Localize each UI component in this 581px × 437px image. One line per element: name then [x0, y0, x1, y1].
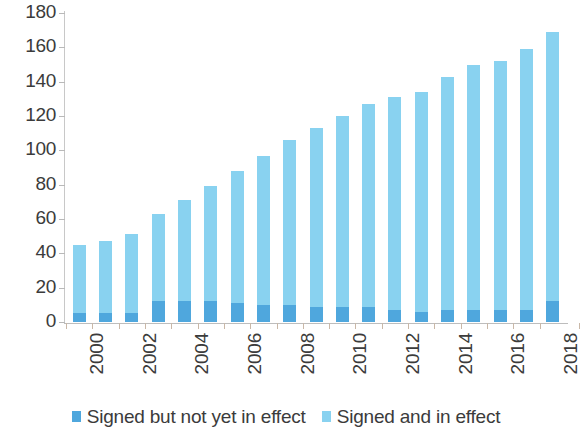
y-axis-tick-label: 140 — [25, 71, 56, 91]
x-axis-tick-label: 2004 — [192, 333, 212, 374]
bar-segment-signed-and-in-effect — [125, 234, 138, 313]
bar-segment-signed-and-in-effect — [283, 140, 296, 305]
bar-segment-signed-and-in-effect — [415, 92, 428, 312]
chart-legend: Signed but not yet in effectSigned and i… — [0, 406, 572, 427]
bar-segment-signed-and-in-effect — [231, 171, 244, 303]
bar-segment-signed-and-in-effect — [152, 214, 165, 302]
bar-stack — [152, 214, 165, 322]
x-axis-line — [64, 323, 568, 324]
x-axis-tick-mark — [303, 323, 304, 329]
legend-item[interactable]: Signed and in effect — [322, 406, 501, 427]
bar-segment-signed-not-yet-in-effect — [467, 310, 480, 322]
bar-stack — [283, 140, 296, 322]
bar-stack — [73, 245, 86, 322]
bar-segment-signed-not-yet-in-effect — [99, 313, 112, 322]
y-axis-tick-mark — [59, 13, 65, 14]
bar-stack — [441, 77, 454, 322]
bar-segment-signed-not-yet-in-effect — [73, 313, 86, 322]
y-axis-tick-mark — [59, 185, 65, 186]
x-axis-tick-mark — [579, 323, 580, 329]
bar-segment-signed-not-yet-in-effect — [204, 301, 217, 322]
y-axis-tick-mark — [59, 116, 65, 117]
y-axis-tick-mark — [59, 288, 65, 289]
legend-swatch-icon — [322, 411, 331, 422]
x-axis-tick-mark — [461, 323, 462, 329]
x-axis-tick-mark — [355, 323, 356, 329]
bar-stack — [336, 116, 349, 322]
bar-segment-signed-not-yet-in-effect — [336, 307, 349, 322]
x-axis-tick-label: 2014 — [456, 333, 476, 374]
bar-stack — [388, 97, 401, 322]
x-axis-tick-mark — [329, 323, 330, 329]
x-axis-tick-mark — [540, 323, 541, 329]
y-axis-tick-mark — [59, 219, 65, 220]
bar-stack — [362, 104, 375, 322]
x-axis-tick-label: 2010 — [350, 333, 370, 374]
x-axis-tick-mark — [513, 323, 514, 329]
y-axis-tick-label: 60 — [35, 208, 56, 228]
x-axis-tick-mark — [408, 323, 409, 329]
bar-segment-signed-and-in-effect — [388, 97, 401, 310]
bar-segment-signed-not-yet-in-effect — [520, 310, 533, 322]
x-axis-tick-label: 2008 — [298, 333, 318, 374]
bar-stack — [231, 171, 244, 322]
bar-segment-signed-not-yet-in-effect — [257, 305, 270, 322]
bar-segment-signed-not-yet-in-effect — [415, 312, 428, 322]
x-axis-tick-label: 2016 — [508, 333, 528, 374]
x-axis-tick-mark — [487, 323, 488, 329]
bar-segment-signed-not-yet-in-effect — [178, 301, 191, 322]
bar-segment-signed-not-yet-in-effect — [231, 303, 244, 322]
x-axis-tick-mark — [250, 323, 251, 329]
plot-area — [66, 13, 566, 322]
bar-segment-signed-and-in-effect — [546, 32, 559, 302]
x-axis-tick-label: 2002 — [140, 333, 160, 374]
y-axis-tick-mark — [59, 47, 65, 48]
x-axis-tick-mark — [171, 323, 172, 329]
x-axis-tick-mark — [224, 323, 225, 329]
x-axis-tick-mark — [66, 323, 67, 329]
x-axis-tick-label: 2006 — [245, 333, 265, 374]
x-axis-tick-mark — [434, 323, 435, 329]
bar-segment-signed-not-yet-in-effect — [362, 307, 375, 322]
bar-segment-signed-not-yet-in-effect — [441, 310, 454, 322]
y-axis-tick-label: 0 — [46, 311, 56, 331]
bar-stack — [415, 92, 428, 322]
bar-segment-signed-and-in-effect — [441, 77, 454, 310]
y-axis-tick-mark — [59, 150, 65, 151]
y-axis-tick-label: 120 — [25, 105, 56, 125]
bar-segment-signed-and-in-effect — [204, 186, 217, 301]
bar-stack — [125, 234, 138, 322]
bar-segment-signed-not-yet-in-effect — [125, 313, 138, 322]
bar-stack — [257, 156, 270, 323]
x-axis-tick-mark — [145, 323, 146, 329]
bar-stack — [494, 61, 507, 322]
bar-segment-signed-and-in-effect — [257, 156, 270, 305]
bar-segment-signed-not-yet-in-effect — [546, 301, 559, 322]
y-axis-tick-mark — [59, 82, 65, 83]
x-axis-tick-mark — [92, 323, 93, 329]
bar-segment-signed-not-yet-in-effect — [283, 305, 296, 322]
legend-item[interactable]: Signed but not yet in effect — [72, 406, 306, 427]
x-axis-tick-mark — [198, 323, 199, 329]
legend-label: Signed and in effect — [337, 406, 501, 427]
bar-segment-signed-and-in-effect — [467, 65, 480, 310]
bar-segment-signed-and-in-effect — [494, 61, 507, 310]
legend-swatch-icon — [72, 411, 81, 422]
x-axis-tick-label: 2012 — [403, 333, 423, 374]
y-axis-tick-label: 40 — [35, 242, 56, 262]
bar-segment-signed-and-in-effect — [362, 104, 375, 307]
bar-segment-signed-and-in-effect — [310, 128, 323, 307]
y-axis-tick-label: 100 — [25, 139, 56, 159]
bar-segment-signed-and-in-effect — [178, 200, 191, 301]
y-axis-tick-mark — [59, 253, 65, 254]
bar-segment-signed-not-yet-in-effect — [388, 310, 401, 322]
x-axis-tick-label: 2000 — [87, 333, 107, 374]
x-axis-tick-label: 2018 — [561, 333, 581, 374]
y-axis-tick-mark — [59, 322, 65, 323]
y-axis-tick-label: 80 — [35, 174, 56, 194]
y-axis-tick-label: 160 — [25, 36, 56, 56]
bar-segment-signed-and-in-effect — [99, 241, 112, 313]
bar-stack — [99, 241, 112, 322]
bar-segment-signed-and-in-effect — [73, 245, 86, 314]
